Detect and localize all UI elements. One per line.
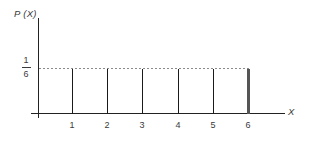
x-tick-label-4: 4 bbox=[170, 120, 186, 131]
x-tick-label-2: 2 bbox=[99, 120, 115, 131]
y-axis-label: P (X) bbox=[14, 8, 37, 19]
fraction-numerator: 1 bbox=[18, 55, 34, 66]
fraction-bar bbox=[22, 67, 31, 68]
uniform-distribution-chart: P (X) X 1 6 1 2 3 4 5 6 bbox=[0, 0, 310, 145]
x-tick-label-6: 6 bbox=[240, 120, 256, 131]
x-tick-label-3: 3 bbox=[134, 120, 150, 131]
x-tick-label-5: 5 bbox=[205, 120, 221, 131]
chart-plot-area bbox=[0, 0, 310, 145]
x-axis-label: X bbox=[288, 106, 294, 117]
y-tick-label-one-sixth: 1 6 bbox=[18, 55, 34, 80]
fraction-denominator: 6 bbox=[18, 69, 34, 80]
x-tick-label-1: 1 bbox=[64, 120, 80, 131]
